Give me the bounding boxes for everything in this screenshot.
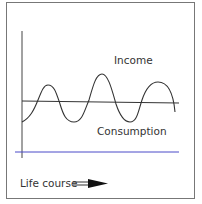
- arrow-head-icon: [88, 179, 108, 188]
- income-consumption-diagram: [0, 0, 202, 204]
- consumption-label: Consumption: [97, 125, 167, 137]
- income-label: Income: [114, 54, 153, 66]
- income-curve: [22, 74, 175, 122]
- x-axis-label: Life course: [20, 177, 77, 189]
- consumption-line: [22, 101, 179, 103]
